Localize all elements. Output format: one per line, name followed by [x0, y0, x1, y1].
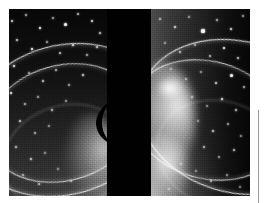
star-point-source	[180, 163, 182, 165]
star-point-source	[215, 82, 217, 84]
star-point-source	[201, 29, 204, 32]
star-point-source	[44, 152, 46, 154]
star-point-source	[34, 132, 36, 134]
star-point-source	[230, 74, 233, 77]
star-point-source	[38, 183, 40, 185]
occulting-bar	[107, 9, 151, 196]
star-point-source	[31, 48, 34, 51]
star-point-source	[242, 15, 244, 17]
star-point-source	[11, 20, 13, 22]
right-exposure-frame	[151, 9, 250, 196]
star-point-source	[37, 96, 39, 98]
star-point-source	[170, 68, 172, 70]
star-point-source	[233, 149, 235, 151]
star-point-source	[51, 109, 53, 111]
star-point-source	[237, 57, 239, 59]
star-point-source	[72, 44, 74, 46]
star-point-source	[55, 69, 57, 71]
star-point-source	[19, 120, 21, 122]
star-point-source	[68, 84, 70, 86]
star-point-source	[164, 42, 166, 44]
star-point-source	[10, 92, 13, 95]
star-point-source	[200, 71, 202, 73]
star-point-source	[191, 96, 193, 98]
star-point-source	[52, 17, 54, 19]
star-point-source	[39, 27, 42, 30]
star-point-source	[48, 125, 50, 127]
star-point-source	[235, 109, 237, 111]
star-point-source	[64, 23, 67, 26]
star-point-source	[42, 80, 44, 82]
star-point-source	[25, 14, 27, 16]
star-point-source	[86, 54, 88, 56]
star-point-source	[30, 158, 32, 160]
star-point-source	[206, 105, 208, 107]
star-point-source	[99, 32, 101, 34]
star-point-source	[216, 19, 218, 21]
star-point-source	[168, 188, 170, 190]
star-point-source	[59, 52, 61, 54]
star-point-source	[185, 78, 187, 80]
star-point-source	[240, 135, 242, 137]
star-point-source	[197, 120, 199, 122]
star-point-source	[65, 100, 67, 102]
star-point-source	[195, 170, 197, 172]
star-point-source	[203, 146, 205, 148]
star-point-source	[227, 123, 229, 125]
star-point-source	[212, 130, 214, 132]
star-point-source	[96, 46, 98, 48]
star-point-source	[46, 41, 48, 43]
star-point-source	[16, 39, 18, 41]
star-point-source	[91, 20, 93, 22]
right-margin-rule	[258, 110, 259, 203]
star-point-source	[226, 174, 228, 176]
star-point-source	[218, 156, 220, 158]
star-point-source	[24, 103, 26, 105]
star-point-source	[221, 98, 224, 101]
star-point-source	[188, 16, 190, 18]
star-point-source	[243, 86, 245, 88]
star-point-source	[57, 168, 59, 170]
star-point-source	[77, 13, 79, 15]
star-point-source	[28, 72, 30, 74]
star-point-source	[209, 55, 211, 57]
neptune-ring-photograph	[9, 9, 250, 196]
right-starfield	[151, 9, 250, 196]
star-point-source	[70, 180, 72, 182]
star-point-source	[174, 26, 177, 29]
star-point-source	[239, 186, 241, 188]
star-point-source	[210, 180, 212, 182]
star-point-source	[82, 74, 84, 76]
star-point-source	[22, 174, 24, 176]
star-point-source	[15, 146, 17, 148]
star-point-source	[223, 47, 226, 50]
star-point-source	[179, 51, 181, 53]
star-point-source	[230, 28, 232, 30]
star-point-source	[13, 65, 16, 68]
star-point-source	[194, 44, 196, 46]
figure-page	[0, 0, 264, 203]
star-point-source	[159, 18, 161, 20]
